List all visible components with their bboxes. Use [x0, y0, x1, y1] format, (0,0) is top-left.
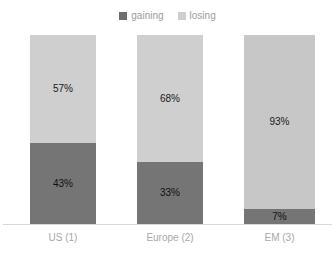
- category-label-us: US (1): [30, 229, 96, 247]
- category-label-em: EM (3): [244, 229, 315, 247]
- chart-legend: gaining losing: [0, 8, 335, 24]
- bar-value-label: 33%: [160, 187, 180, 198]
- bar-value-label: 93%: [269, 116, 289, 127]
- bar-segment-em-losing[interactable]: 93%: [244, 35, 315, 209]
- square-swatch-icon: [119, 12, 127, 20]
- bar-group-us: 57% 43%: [30, 35, 96, 224]
- category-axis: US (1) Europe (2) EM (3): [0, 229, 335, 249]
- bar-stack-em: 93% 7%: [244, 35, 315, 224]
- plot-area: 57% 43% 68% 33% 93%: [0, 35, 335, 224]
- bar-stack-us: 57% 43%: [30, 35, 96, 224]
- bar-value-label: 68%: [160, 93, 180, 104]
- square-swatch-icon: [178, 12, 186, 20]
- legend-label-gaining: gaining: [131, 11, 163, 21]
- bar-value-label: 57%: [53, 83, 73, 94]
- bar-segment-europe-gaining[interactable]: 33%: [137, 162, 203, 224]
- legend-label-losing: losing: [190, 11, 216, 21]
- bar-stack-europe: 68% 33%: [137, 35, 203, 224]
- bar-group-em: 93% 7%: [244, 35, 315, 224]
- bar-value-label: 7%: [272, 211, 286, 222]
- bar-value-label: 43%: [53, 178, 73, 189]
- bar-segment-em-gaining[interactable]: 7%: [244, 209, 315, 224]
- legend-item-losing[interactable]: losing: [178, 11, 216, 21]
- bar-group-europe: 68% 33%: [137, 35, 203, 224]
- bar-segment-us-gaining[interactable]: 43%: [30, 143, 96, 224]
- stacked-bar-chart: gaining losing 57% 43% 68%: [0, 0, 335, 254]
- category-label-europe: Europe (2): [137, 229, 203, 247]
- bar-segment-europe-losing[interactable]: 68%: [137, 35, 203, 162]
- axis-baseline: [3, 224, 332, 225]
- legend-item-gaining[interactable]: gaining: [119, 11, 163, 21]
- bar-segment-us-losing[interactable]: 57%: [30, 35, 96, 143]
